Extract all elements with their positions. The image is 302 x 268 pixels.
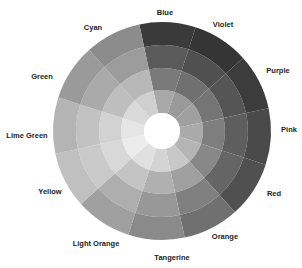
label-red: Red <box>267 189 281 198</box>
label-orange: Orange <box>212 232 238 241</box>
wheel-segment-blue-ring-4 <box>139 22 195 49</box>
wheel-segment-blue-ring-3 <box>144 45 188 71</box>
wheel-segment-lime-green-ring-3 <box>76 104 102 148</box>
label-lime-green: Lime Green <box>6 131 47 140</box>
label-violet: Violet <box>213 20 233 29</box>
label-light-orange: Light Orange <box>73 239 120 248</box>
wheel-segment-pink-ring-3 <box>222 113 248 157</box>
label-pink: Pink <box>281 125 297 134</box>
wheel-segment-tangerine-ring-4 <box>128 213 184 240</box>
wheel-segment-lime-green-ring-4 <box>53 97 80 153</box>
wheel-segment-tangerine-ring-3 <box>135 191 179 217</box>
label-cyan: Cyan <box>84 23 102 32</box>
label-purple: Purple <box>266 66 289 75</box>
center-hole <box>144 113 180 149</box>
label-yellow: Yellow <box>38 187 61 196</box>
label-green: Green <box>31 72 53 81</box>
label-blue: Blue <box>157 8 173 17</box>
wheel-segment-pink-ring-4 <box>244 108 271 164</box>
label-tangerine: Tangerine <box>154 253 189 262</box>
